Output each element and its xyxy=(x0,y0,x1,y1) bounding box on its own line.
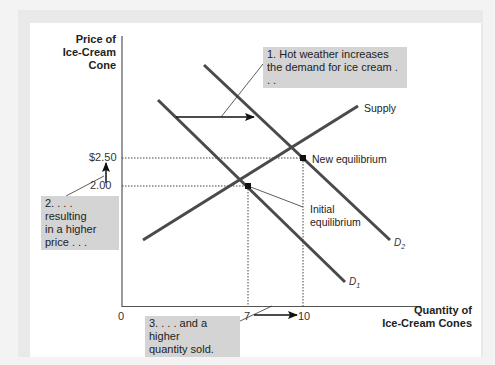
initial-equilibrium-point xyxy=(245,183,251,189)
supply-label: Supply xyxy=(364,102,396,115)
y-title-line-1: Price of xyxy=(63,33,116,46)
x-tick-new-qty: 10 xyxy=(298,310,310,322)
y-tick-initial-price: 2.00 xyxy=(90,179,111,191)
initial-eq-line-1: Initial xyxy=(310,203,361,216)
y-title-line-3: Cone xyxy=(63,59,116,72)
x-tick-initial-qty: 7 xyxy=(244,310,250,322)
y-title-line-2: Ice-Cream xyxy=(63,46,116,59)
new-equilibrium-point xyxy=(300,155,306,161)
x-tick-origin: 0 xyxy=(118,310,124,322)
x-axis-title: Quantity of Ice-Cream Cones xyxy=(382,304,472,330)
d1-label-sub: 1 xyxy=(356,282,360,289)
d1-label: D1 xyxy=(349,276,360,289)
demand-curve-d1 xyxy=(158,100,345,282)
callout-higher-quantity: 3. . . . and a higher quantity sold. xyxy=(145,316,240,357)
callout1-leader xyxy=(221,64,263,117)
x-title-line-2: Ice-Cream Cones xyxy=(382,317,472,330)
x-title-line-1: Quantity of xyxy=(382,304,472,317)
d2-label: D2 xyxy=(394,237,405,250)
y-tick-new-price: $2.50 xyxy=(89,151,117,163)
initial-eq-line-2: equilibrium xyxy=(310,216,361,229)
y-axis-title: Price of Ice-Cream Cone xyxy=(63,33,116,72)
d2-label-sub: 2 xyxy=(401,243,405,250)
initial-equilibrium-label: Initial equilibrium xyxy=(310,203,361,229)
callout-higher-price: 2. . . . resulting in a higher price . .… xyxy=(41,196,119,250)
callout-demand-increase: 1. Hot weather increases the demand for … xyxy=(263,47,407,88)
new-equilibrium-label: New equilibrium xyxy=(312,153,387,166)
